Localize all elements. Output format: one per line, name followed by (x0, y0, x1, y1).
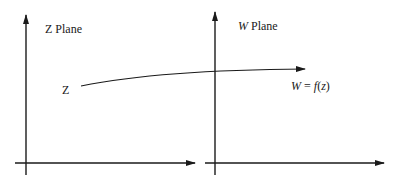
formula-lhs: W (291, 79, 301, 93)
w-plane-title: W Plane (238, 20, 278, 32)
z-plane-title-text: Plane (52, 22, 82, 36)
mapping-formula: W = f(z) (291, 80, 330, 92)
z-plane-title: Z Plane (45, 23, 82, 35)
formula-eq: = (301, 79, 314, 93)
formula-close: ) (326, 79, 330, 93)
w-plane-title-text: Plane (248, 19, 278, 33)
z-point-label: Z (62, 84, 69, 96)
w-plane-title-var: W (238, 19, 248, 33)
mapping-arrow (81, 69, 305, 86)
mapping-diagram: Z Plane Z W Plane W = f(z) (0, 0, 394, 189)
